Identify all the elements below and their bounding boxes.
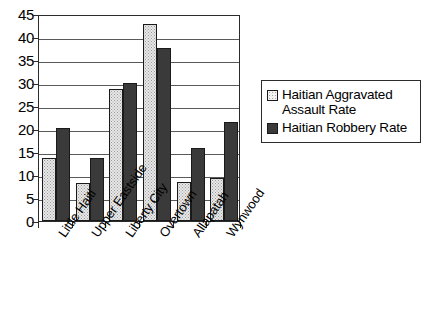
x-axis-tick-mark <box>38 222 39 228</box>
gridline <box>39 39 239 40</box>
y-axis-tick-label: 15 <box>0 145 34 160</box>
gridline <box>39 62 239 63</box>
y-axis-tick-label: 45 <box>0 7 34 22</box>
y-axis-tick-label: 10 <box>0 168 34 183</box>
y-axis-tick-label: 35 <box>0 53 34 68</box>
legend-swatch-robbery <box>267 123 278 134</box>
plot-area <box>38 15 240 222</box>
bar <box>42 158 56 221</box>
y-axis-tick-label: 30 <box>0 76 34 91</box>
legend-swatch-aggravated-assault <box>267 90 278 101</box>
y-axis-tick-label: 40 <box>0 30 34 45</box>
bar <box>224 122 238 221</box>
chart-legend: Haitian Aggravated Assault Rate Haitian … <box>261 80 421 143</box>
bar-chart-figure: 051015202530354045 Little HaitiUpper Eas… <box>0 0 428 317</box>
gridline <box>39 85 239 86</box>
y-axis-tick-label: 20 <box>0 122 34 137</box>
y-axis-tick-label: 5 <box>0 191 34 206</box>
y-axis-tick-label: 25 <box>0 99 34 114</box>
y-axis-tick-label: 0 <box>0 214 34 229</box>
legend-item-robbery: Haitian Robbery Rate <box>267 120 415 135</box>
bar <box>191 148 205 221</box>
legend-label-aggravated-assault: Haitian Aggravated Assault Rate <box>282 87 415 117</box>
gridline <box>39 108 239 109</box>
legend-label-robbery: Haitian Robbery Rate <box>282 120 407 135</box>
bar <box>56 128 70 221</box>
legend-item-aggravated-assault: Haitian Aggravated Assault Rate <box>267 87 415 117</box>
